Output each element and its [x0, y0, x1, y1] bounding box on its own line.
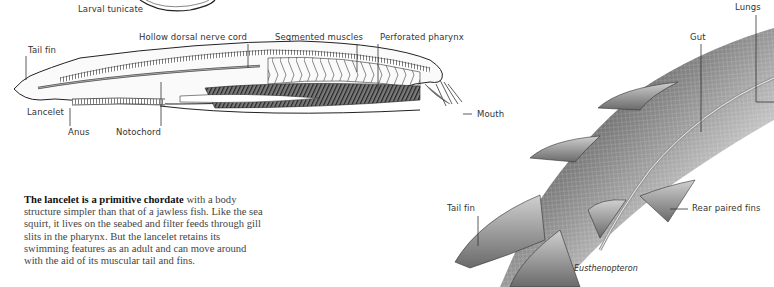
species-name: Eusthenopteron	[574, 264, 638, 273]
caption-lead: The lancelet is a primitive chordate	[24, 194, 184, 205]
larval-tunicate-drawing	[140, 0, 215, 11]
label-tail-fin-fish: Tail fin	[447, 203, 475, 213]
label-tail-fin-lancelet: Tail fin	[28, 45, 56, 55]
label-segmented-muscles: Segmented muscles	[275, 32, 363, 42]
eusthenopteron-drawing	[455, 28, 774, 287]
label-notochord: Notochord	[116, 127, 161, 137]
label-perforated-pharynx: Perforated pharynx	[380, 32, 464, 42]
label-lungs: Lungs	[735, 2, 761, 12]
lancelet-drawing	[14, 41, 462, 113]
label-larval-tunicate: Larval tunicate	[78, 4, 143, 14]
label-lancelet: Lancelet	[27, 107, 64, 117]
caption-paragraph: The lancelet is a primitive chordate wit…	[24, 194, 264, 267]
label-mouth: Mouth	[477, 109, 504, 119]
label-gut: Gut	[690, 32, 706, 42]
label-rear-paired-fins: Rear paired fins	[692, 203, 761, 213]
label-hollow-dorsal-nerve-cord: Hollow dorsal nerve cord	[139, 32, 247, 42]
label-anus: Anus	[68, 127, 89, 137]
